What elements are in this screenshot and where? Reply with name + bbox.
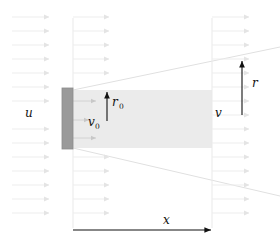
flow-diagram: u v r x r 0 v 0 [0,0,280,250]
label-v0-base: v [88,115,95,129]
label-u: u [25,106,33,120]
diagram-canvas: u v r x r 0 v 0 [0,0,280,250]
label-v: v [215,106,222,120]
label-x: x [163,213,170,227]
label-v0-subscript: 0 [95,122,100,131]
label-r0-subscript: 0 [119,102,124,111]
actuator-disk [62,88,73,149]
